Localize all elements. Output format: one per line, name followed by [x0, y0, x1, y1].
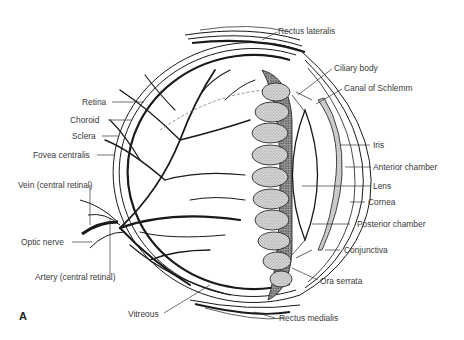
label-ora-serrata: Ora serrata: [320, 276, 362, 286]
label-conjunctiva: Conjunctiva: [344, 245, 388, 255]
label-retina: Retina: [82, 97, 106, 107]
label-fovea-centralis: Fovea centralis: [33, 150, 90, 160]
label-vitreous: Vitreous: [128, 309, 159, 319]
label-cornea: Cornea: [368, 197, 395, 207]
label-rectus-lateralis: Rectus lateralis: [278, 26, 335, 36]
label-canal-of-schlemm: Canal of Schlemm: [344, 83, 412, 93]
label-ciliary-body: Ciliary body: [334, 63, 378, 73]
lens-shape: [293, 110, 318, 240]
label-optic-nerve: Optic nerve: [21, 237, 64, 247]
panel-letter: A: [19, 310, 27, 322]
label-iris: Iris: [373, 140, 384, 150]
label-posterior-chamber: Posterior chamber: [357, 219, 425, 229]
label-sclera: Sclera: [72, 131, 96, 141]
label-artery-central-retinal: Artery (central retinal): [35, 272, 116, 282]
label-anterior-chamber: Anterior chamber: [373, 162, 437, 172]
ciliary-processes: [252, 70, 292, 300]
iris-shape: [318, 98, 342, 250]
macula-outline: [160, 90, 265, 130]
label-vein-central-retinal: Vein (central retinal): [18, 180, 92, 190]
label-rectus-medialis: Rectus medialis: [279, 313, 338, 323]
label-lens: Lens: [373, 181, 391, 191]
label-choroid: Choroid: [70, 115, 99, 125]
